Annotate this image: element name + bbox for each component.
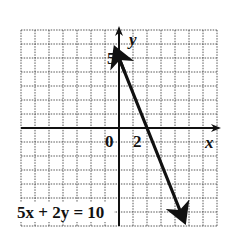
y-axis-label: y bbox=[127, 30, 137, 49]
series-line-0 bbox=[116, 51, 183, 219]
x-axis-label: x bbox=[204, 133, 214, 152]
equation-label: 5x + 2y = 10 bbox=[17, 203, 104, 222]
tick-label-y-5: 5 bbox=[107, 49, 116, 68]
tick-label-x-0: 0 bbox=[105, 132, 114, 151]
coordinate-plane: x y 502 5x + 2y = 10 bbox=[0, 0, 227, 236]
tick-label-x-2: 2 bbox=[133, 132, 142, 151]
series-line-start-arrow bbox=[116, 51, 124, 72]
